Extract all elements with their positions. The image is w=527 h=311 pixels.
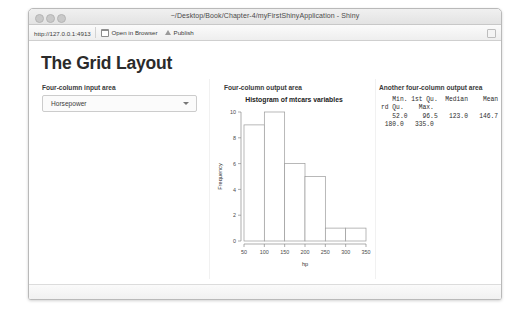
histogram-bar (244, 125, 264, 241)
page-title: The Grid Layout (41, 53, 172, 74)
histogram-plot-panel: Histogram of mtcars variables 0246810501… (214, 96, 374, 281)
open-in-browser-label: Open in Browser (112, 29, 158, 36)
y-tick-label: 6 (233, 161, 236, 167)
publish-button[interactable]: Publish (165, 29, 194, 36)
y-tick-label: 2 (233, 212, 236, 218)
another-output-area-label: Another four-column output area (379, 84, 482, 91)
x-tick-label: 250 (321, 249, 330, 255)
x-tick-label: 100 (260, 249, 269, 255)
variable-select-value: Horsepower (51, 100, 87, 107)
y-tick-label: 4 (233, 187, 236, 193)
x-tick-label: 50 (241, 249, 247, 255)
publish-label: Publish (174, 29, 194, 36)
histogram-bar (285, 164, 305, 241)
y-tick-label: 10 (230, 109, 236, 115)
grid-separator (375, 79, 376, 279)
summary-output: Min. 1st Qu. Median Mean 3 rd Qu. Max. 5… (381, 96, 502, 130)
y-axis-label: Frequency (217, 163, 223, 190)
x-axis-label: hp (302, 261, 308, 267)
panel-icon[interactable] (487, 29, 496, 38)
shiny-page-body: The Grid Layout Four-column input area H… (29, 41, 501, 299)
toolbar-divider (95, 27, 96, 38)
variable-select[interactable]: Horsepower (42, 95, 197, 112)
open-in-browser-button[interactable]: Open in Browser (101, 29, 158, 37)
input-area-label: Four-column input area (42, 84, 116, 91)
histogram-bar (325, 228, 345, 241)
grid-separator (209, 79, 210, 279)
x-tick-label: 350 (362, 249, 371, 255)
y-tick-label: 0 (233, 238, 236, 244)
address-text[interactable]: http://127.0.0.1:4913 (34, 30, 91, 37)
output-area-label: Four-column output area (224, 84, 302, 91)
app-toolbar: http://127.0.0.1:4913 Open in Browser Pu… (29, 25, 501, 41)
histogram-bar (305, 177, 325, 242)
y-tick-label: 8 (233, 135, 236, 141)
histogram-bar (264, 112, 284, 241)
window-titlebar: ~/Desktop/Book/Chapter-4/myFirstShinyApp… (29, 9, 501, 25)
window-title: ~/Desktop/Book/Chapter-4/myFirstShinyApp… (29, 12, 501, 19)
publish-arrow-icon (165, 30, 171, 35)
histogram-svg: 024681050100150200250300350hpFrequency (214, 104, 374, 279)
x-tick-label: 300 (341, 249, 350, 255)
chevron-down-icon (183, 102, 189, 105)
plot-title: Histogram of mtcars variables (214, 96, 374, 103)
x-tick-label: 200 (301, 249, 310, 255)
shiny-app-window: ~/Desktop/Book/Chapter-4/myFirstShinyApp… (28, 8, 502, 300)
window-icon (101, 29, 109, 37)
histogram-bar (346, 228, 366, 241)
window-footer (29, 284, 501, 299)
x-tick-label: 150 (280, 249, 289, 255)
